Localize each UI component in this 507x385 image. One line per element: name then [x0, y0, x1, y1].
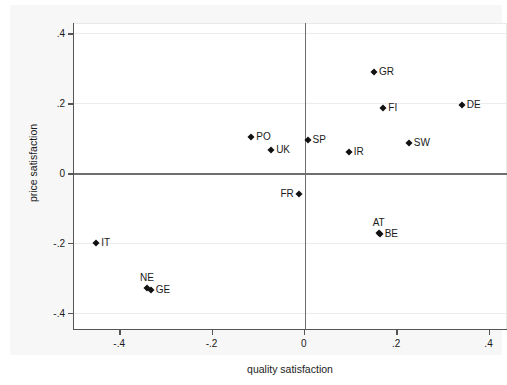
y-axis-tick-label: -.4 [53, 307, 65, 318]
x-axis-tick [396, 330, 398, 335]
data-point-marker [147, 286, 154, 293]
plot-frame-top [74, 23, 507, 24]
y-axis-tick [68, 313, 73, 315]
data-point-marker [93, 239, 100, 246]
data-point-marker [345, 149, 352, 156]
y-axis-tick [68, 173, 73, 175]
data-point-label: FI [388, 103, 397, 113]
x-axis-tick [489, 330, 491, 335]
data-point-marker [248, 134, 255, 141]
x-axis-tick [304, 330, 306, 335]
x-axis-tick-label: -.4 [113, 338, 125, 349]
data-point-label: FR [281, 189, 294, 199]
x-axis-tick-label: 0 [301, 338, 307, 349]
data-point-label: NE [140, 273, 154, 283]
data-point-label: PO [256, 132, 270, 142]
x-axis-tick-label: .2 [392, 338, 400, 349]
y-axis-tick [68, 243, 73, 245]
y-axis-tick-label: .2 [57, 98, 65, 109]
zero-line-vertical [305, 23, 307, 329]
x-axis-title: quality satisfaction [73, 363, 507, 375]
y-axis-tick-label: .4 [57, 28, 65, 39]
data-point-label: GE [156, 285, 170, 295]
y-axis-title: price satisfaction [27, 83, 39, 243]
chart-canvas: GRFIDESWIRSPUKPOFRATBEITNEGE -.4-.20.2.4… [10, 5, 502, 355]
data-point-marker [295, 190, 302, 197]
data-point-label: IR [354, 147, 364, 157]
x-axis-tick-label: -.2 [206, 338, 218, 349]
y-axis-tick [68, 103, 73, 105]
data-point-label: IT [101, 238, 110, 248]
gridline-horizontal [74, 103, 507, 104]
data-point-marker [376, 231, 383, 238]
y-axis-tick-label: -.2 [53, 237, 65, 248]
data-point-label: DE [467, 100, 481, 110]
data-point-marker [371, 68, 378, 75]
data-point-label: SW [414, 138, 430, 148]
data-point-label: SP [313, 135, 326, 145]
data-point-label: AT [373, 218, 385, 228]
x-axis-tick [212, 330, 214, 335]
data-point-label: BE [385, 229, 398, 239]
zero-line-horizontal [74, 173, 507, 175]
data-point-marker [268, 146, 275, 153]
gridline-horizontal [74, 313, 507, 314]
plot-area: GRFIDESWIRSPUKPOFRATBEITNEGE [73, 23, 507, 330]
x-axis-tick-label: .4 [484, 338, 492, 349]
y-axis-tick-label: 0 [59, 168, 65, 179]
y-axis-tick [68, 33, 73, 35]
data-point-label: UK [276, 145, 290, 155]
x-axis-tick [119, 330, 121, 335]
gridline-horizontal [74, 33, 507, 34]
gridline-horizontal [74, 243, 507, 244]
data-point-marker [380, 105, 387, 112]
data-point-marker [405, 140, 412, 147]
data-point-label: GR [379, 67, 394, 77]
